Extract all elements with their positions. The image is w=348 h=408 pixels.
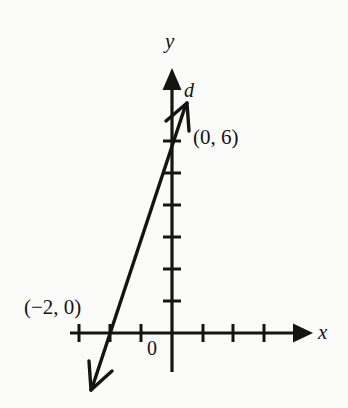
- y-axis-arrowhead: [163, 68, 182, 90]
- line-label-d: d: [184, 80, 194, 100]
- point-label-y-intercept: (0, 6): [193, 127, 239, 148]
- point-label-x-intercept: (−2, 0): [24, 297, 81, 318]
- origin-label: 0: [147, 338, 157, 358]
- x-axis-arrowhead: [293, 324, 313, 343]
- y-axis-label: y: [165, 31, 174, 52]
- coordinate-plane-figure: y x d (0, 6) (−2, 0) 0: [0, 0, 348, 408]
- graph-canvas: [0, 0, 348, 408]
- x-axis-label: x: [318, 322, 327, 343]
